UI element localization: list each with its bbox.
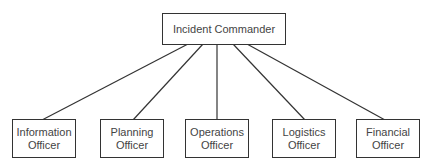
information-officer-box: InformationOfficer — [12, 119, 76, 158]
incident-commander-box: Incident Commander — [162, 13, 286, 45]
box-label-line2: Officer — [16, 139, 71, 152]
box-label-line1: Financial — [366, 126, 410, 139]
logistics-officer-box: LogisticsOfficer — [272, 119, 336, 158]
box-label-line2: Officer — [111, 139, 154, 152]
planning-officer-box: PlanningOfficer — [100, 119, 164, 158]
incident-commander-label: Incident Commander — [173, 23, 275, 36]
operations-officer-box: OperationsOfficer — [185, 119, 249, 158]
box-label-line2: Officer — [366, 139, 410, 152]
box-label-line1: Information — [16, 126, 71, 139]
financial-officer-box: FinancialOfficer — [356, 119, 420, 158]
box-label-line1: Operations — [190, 126, 244, 139]
box-label-line1: Planning — [111, 126, 154, 139]
box-label-line1: Logistics — [283, 126, 326, 139]
box-label-line2: Officer — [283, 139, 326, 152]
box-label-line2: Officer — [190, 139, 244, 152]
